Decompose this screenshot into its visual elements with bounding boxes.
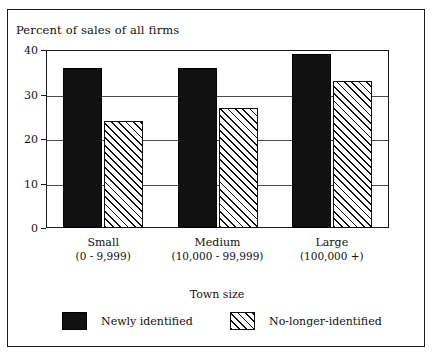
category-range: (100,000 +) [300,250,364,264]
y-tick-label: 10 [4,177,38,190]
solid-black-swatch [62,312,87,330]
legend-item-1: Newly identified [62,312,193,330]
y-tick-label: 0 [4,222,38,235]
chart-figure: Percent of sales of all firms 010203040 … [0,0,434,358]
category-name: Small [76,236,131,250]
bar-small-series2 [104,121,143,228]
x-axis-title: Town size [190,288,245,301]
category-name: Large [300,236,364,250]
category-name: Medium [172,236,264,250]
bar-medium-series2 [219,108,258,228]
legend-label: No-longer-identified [269,315,382,328]
category-label-large: Large(100,000 +) [300,236,364,263]
y-tick-mark [41,228,46,229]
category-label-medium: Medium(10,000 - 99,999) [172,236,264,263]
bar-small-series1 [63,68,102,228]
category-range: (10,000 - 99,999) [172,250,264,264]
y-tick-label: 20 [4,133,38,146]
chart-legend: Newly identifiedNo-longer-identified [62,312,382,338]
chart-title: Percent of sales of all firms [16,23,179,37]
category-range: (0 - 9,999) [76,250,131,264]
category-label-small: Small(0 - 9,999) [76,236,131,263]
y-tick-label: 40 [4,44,38,57]
y-tick-label: 30 [4,88,38,101]
legend-label: Newly identified [101,315,193,328]
bar-medium-series1 [178,68,217,228]
bar-large-series1 [292,54,331,228]
hatched-swatch [230,312,255,330]
legend-item-2: No-longer-identified [230,312,382,330]
bar-large-series2 [333,81,372,228]
